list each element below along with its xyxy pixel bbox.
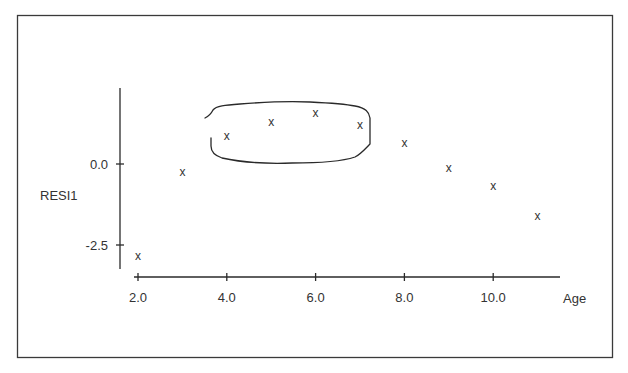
data-points: xxxxxxxxxx — [135, 106, 541, 263]
plot-frame — [18, 16, 613, 358]
data-point-marker: x — [268, 115, 274, 129]
scatter-plot: 0.0-2.5 2.04.06.08.010.0 RESI1 Age xxxxx… — [0, 0, 628, 373]
data-point-marker: x — [446, 161, 452, 175]
data-point-marker: x — [135, 249, 141, 263]
x-tick-label: 6.0 — [307, 290, 325, 305]
y-axis-label: RESI1 — [40, 188, 78, 203]
x-tick-label: 4.0 — [218, 290, 236, 305]
x-tick-label: 2.0 — [129, 290, 147, 305]
data-point-marker: x — [535, 209, 541, 223]
data-point-marker: x — [224, 129, 230, 143]
data-point-marker: x — [313, 106, 319, 120]
data-point-marker: x — [490, 179, 496, 193]
data-point-marker: x — [179, 165, 185, 179]
x-tick-label: 10.0 — [481, 290, 506, 305]
x-axis-ticks: 2.04.06.08.010.0 — [129, 273, 506, 305]
x-axis-label: Age — [563, 291, 586, 306]
data-point-marker: x — [357, 118, 363, 132]
y-tick-label: 0.0 — [90, 157, 108, 172]
y-axis-ticks: 0.0-2.5 — [86, 157, 124, 253]
x-tick-label: 8.0 — [395, 290, 413, 305]
data-point-marker: x — [401, 136, 407, 150]
y-tick-label: -2.5 — [86, 238, 108, 253]
